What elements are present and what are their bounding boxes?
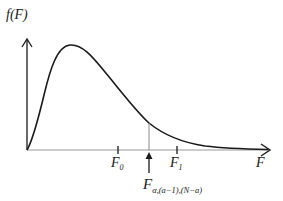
f-distribution-diagram: f(F) F F0 F1 Fα,(a−1),(N−a) bbox=[0, 0, 283, 201]
tick-label-f0: F0 bbox=[111, 156, 124, 170]
tick-label-f1-sub: 1 bbox=[179, 163, 183, 172]
tick-label-f0-sub: 0 bbox=[120, 163, 124, 172]
critical-value-label: Fα,(a−1),(N−a) bbox=[143, 177, 202, 192]
diagram-svg bbox=[0, 0, 283, 201]
tick-label-f1: F1 bbox=[170, 156, 183, 170]
critical-value-label-sub: α,(a−1),(N−a) bbox=[152, 185, 202, 195]
x-axis-label: F bbox=[256, 156, 265, 170]
tick-label-f1-main: F bbox=[170, 155, 179, 170]
density-curve bbox=[27, 45, 268, 150]
critical-value-arrow-icon bbox=[146, 152, 153, 173]
tick-label-f0-main: F bbox=[111, 155, 120, 170]
y-axis-label: f(F) bbox=[6, 8, 28, 22]
y-axis bbox=[22, 39, 32, 150]
critical-value-label-main: F bbox=[143, 176, 152, 192]
